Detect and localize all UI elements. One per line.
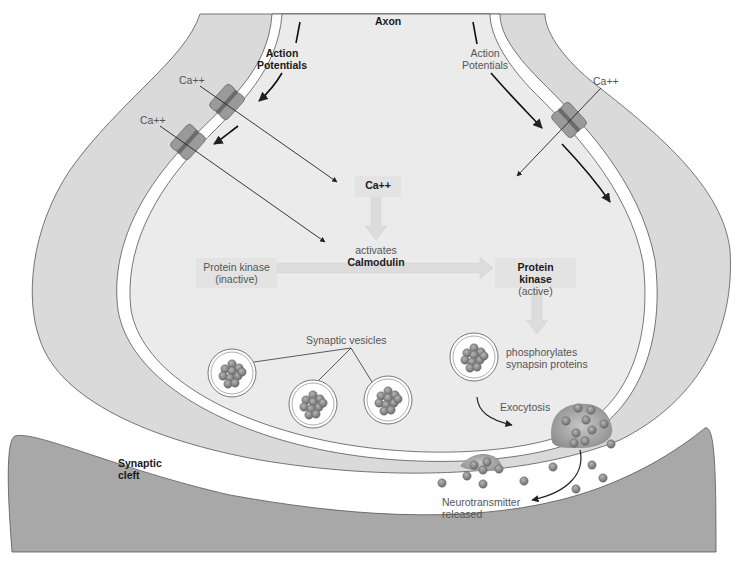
calmodulin-label: Calmodulin [332,256,420,268]
calcium-box: Ca++ [355,176,401,197]
neurotransmitter-line2: released [442,508,482,520]
pk-inactive-line1: Protein kinase [201,261,272,273]
calcium-label-top: Ca++ [179,74,205,86]
exocytosis-label: Exocytosis [500,401,550,413]
calcium-label-bottom: Ca++ [140,114,166,126]
neurotransmitter-line1: Neurotransmitter [442,496,520,508]
protein-kinase-inactive-box: Protein kinase (inactive) [196,258,277,288]
activates-label: activates [340,244,412,256]
action-potentials-right-line1: Action [455,47,515,59]
protein-kinase-active-box: Protein kinase (active) [495,258,576,288]
synaptic-cleft-line2: cleft [118,469,140,481]
synaptic-cleft-line1: Synaptic [118,457,162,469]
action-potentials-left-line1: Action [252,47,312,59]
pk-active-line1: Protein kinase [500,261,571,285]
phosphorylates-line1: phosphorylates [506,346,577,358]
action-potentials-left-line2: Potentials [252,59,312,71]
synapse-diagram [0,0,751,562]
pk-active-line2: (active) [500,285,571,297]
pk-inactive-line2: (inactive) [201,273,272,285]
calcium-label-right: Ca++ [593,75,619,87]
action-potentials-right-line2: Potentials [455,59,515,71]
phosphorylates-line2: synapsin proteins [506,358,588,370]
axon-label: Axon [375,15,401,27]
synaptic-vesicles-label: Synaptic vesicles [306,334,387,346]
